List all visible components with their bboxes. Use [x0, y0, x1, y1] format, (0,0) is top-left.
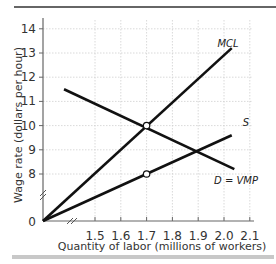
x-axis-title: Quantity of labor (millions of workers) [58, 240, 266, 253]
marker-point [143, 122, 149, 128]
origin-label: 0 [28, 215, 36, 229]
marker-point [143, 171, 149, 177]
y-axis-title: Wage rate (dollars per hour) [12, 47, 25, 203]
y-tick-label: 14 [21, 22, 36, 36]
curve-mcl [43, 48, 232, 221]
bottom-rule [12, 255, 274, 259]
curves [43, 48, 234, 221]
curve-label: S [243, 117, 250, 128]
chart: 8910111213141.51.61.71.81.92.02.1 MCLD =… [0, 0, 276, 264]
curve-s [43, 135, 232, 221]
y-tick-label: 9 [28, 143, 36, 157]
curve-label: MCL [217, 38, 238, 49]
y-tick-label: 8 [28, 167, 36, 181]
curve-label: D = VMP [214, 175, 259, 186]
